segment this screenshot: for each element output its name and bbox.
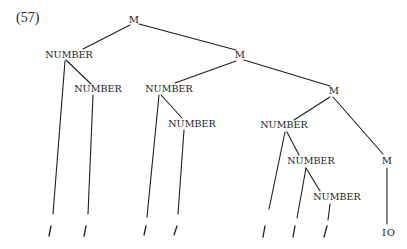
node-m-root: M bbox=[129, 15, 139, 25]
edge-n6-leaf bbox=[297, 168, 306, 218]
node-number-3: NUMBER bbox=[145, 84, 193, 94]
edge-m1-m2 bbox=[139, 24, 236, 50]
edge-n1-leaf bbox=[53, 61, 65, 214]
leaf-value-io: IO bbox=[382, 228, 396, 238]
edge-n3-n4 bbox=[161, 95, 182, 118]
leaf-mark-1 bbox=[49, 226, 51, 236]
edge-n4-leaf bbox=[178, 130, 184, 214]
example-number: (57) bbox=[16, 11, 39, 25]
node-number-2: NUMBER bbox=[74, 84, 122, 94]
edge-m2-m3 bbox=[244, 60, 330, 86]
leaf-mark-5 bbox=[263, 226, 265, 237]
tree-diagram: (57) M NUMBER NUMBER M NUMBER NUMBER M N… bbox=[0, 0, 407, 249]
edge-m3-n5 bbox=[294, 97, 330, 120]
edge-n5-leaf bbox=[269, 132, 285, 209]
node-m-3: M bbox=[329, 86, 339, 96]
leaf-mark-3 bbox=[144, 226, 146, 235]
edge-n6-n7 bbox=[306, 168, 320, 191]
node-number-1: NUMBER bbox=[45, 50, 93, 60]
node-number-5: NUMBER bbox=[260, 120, 308, 130]
node-number-4: NUMBER bbox=[168, 119, 216, 129]
edge-n1-n2 bbox=[66, 60, 91, 84]
edge-n3-leaf bbox=[147, 95, 159, 217]
leaf-mark-7 bbox=[324, 226, 327, 237]
node-number-7: NUMBER bbox=[313, 192, 361, 202]
node-number-6: NUMBER bbox=[287, 156, 335, 166]
edge-m2-n3 bbox=[175, 61, 236, 83]
edge-n2-leaf bbox=[88, 95, 93, 214]
leaf-mark-6 bbox=[293, 226, 295, 237]
edge-n5-n6 bbox=[287, 132, 299, 155]
leaf-mark-2 bbox=[84, 226, 86, 236]
node-m-2: M bbox=[235, 50, 245, 60]
leaf-mark-4 bbox=[174, 226, 177, 235]
edge-m3-m4 bbox=[333, 97, 383, 154]
edge-n7-leaf bbox=[328, 204, 330, 220]
node-m-4: M bbox=[382, 156, 392, 166]
edge-m1-n1 bbox=[83, 25, 130, 49]
